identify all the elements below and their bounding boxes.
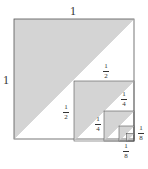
denominator: 8 bbox=[124, 153, 128, 160]
numerator: 1 bbox=[122, 91, 126, 98]
denominator: 4 bbox=[122, 101, 126, 108]
shaded-triangles bbox=[14, 19, 134, 141]
label-left-one: 1 bbox=[1, 74, 11, 86]
denominator: 4 bbox=[96, 126, 100, 133]
label-top-one: 1 bbox=[68, 5, 78, 17]
numerator: 1 bbox=[64, 104, 68, 111]
label-eighth-bottom: 1 8 bbox=[121, 143, 131, 160]
label-quarter-left: 1 4 bbox=[93, 116, 103, 133]
numerator: 1 bbox=[96, 116, 100, 123]
numerator: 1 bbox=[104, 63, 108, 70]
label-quarter-top: 1 4 bbox=[119, 91, 129, 108]
denominator: 2 bbox=[64, 114, 68, 121]
denominator: 2 bbox=[104, 73, 108, 80]
label-half-top: 1 2 bbox=[101, 63, 111, 80]
numerator: 1 bbox=[124, 143, 128, 150]
label-half-left: 1 2 bbox=[61, 104, 71, 121]
denominator: 8 bbox=[139, 135, 143, 142]
numerator: 1 bbox=[139, 125, 143, 132]
label-eighth-right: 1 8 bbox=[136, 125, 146, 142]
